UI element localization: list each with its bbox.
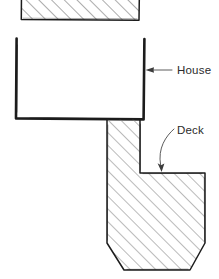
deck-callout-group: Deck [158, 124, 204, 172]
deck-leader-line [160, 129, 174, 165]
deck-label: Deck [177, 124, 204, 136]
neighboring-structure-hatch-fill [21, 0, 139, 20]
house-outline [16, 39, 144, 120]
deck-arrow-head-icon [158, 163, 165, 172]
deck-hatch-fill [107, 119, 205, 270]
house-arrow-head-icon [146, 67, 155, 73]
deck-shape [107, 119, 205, 270]
diagram-canvas: House Deck [0, 0, 219, 279]
house-shape [16, 39, 144, 120]
house-label: House [177, 64, 211, 76]
house-deck-drawing: House Deck [0, 0, 219, 279]
house-callout-group: House [146, 64, 212, 76]
neighboring-structure-shape [21, 0, 139, 20]
house-left-wall-texture [17, 45, 18, 112]
